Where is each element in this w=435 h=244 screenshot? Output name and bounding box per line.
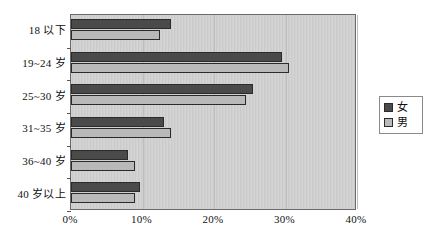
bar-female xyxy=(71,182,140,192)
bar-female xyxy=(71,52,282,62)
category-label: 31~35 岁 xyxy=(22,121,66,135)
category-label: 36~40 岁 xyxy=(22,154,66,168)
category-tick xyxy=(67,211,71,212)
bar-male xyxy=(71,63,289,73)
bar-male xyxy=(71,161,135,171)
bar-chart-figure: 18 以下19~24 岁25~30 岁31~35 岁36~40 岁40 岁以上 … xyxy=(0,0,435,244)
plot-area xyxy=(70,14,356,210)
bar-male xyxy=(71,30,160,40)
gridline xyxy=(286,15,287,209)
legend-label: 男 xyxy=(397,117,408,128)
legend-item: 男 xyxy=(384,115,419,130)
legend-item: 女 xyxy=(384,100,419,115)
value-tick-label: 30% xyxy=(274,213,295,225)
category-axis-labels: 18 以下19~24 岁25~30 岁31~35 岁36~40 岁40 岁以上 xyxy=(0,14,68,210)
bar-female xyxy=(71,19,171,29)
value-tick-label: 0% xyxy=(62,213,77,225)
legend-label: 女 xyxy=(397,102,408,113)
chart-legend: 女男 xyxy=(379,96,423,134)
category-tick xyxy=(67,48,71,49)
value-tick-label: 40% xyxy=(346,213,367,225)
category-tick xyxy=(67,113,71,114)
bar-male xyxy=(71,95,246,105)
value-tick-label: 10% xyxy=(131,213,152,225)
category-label: 19~24 岁 xyxy=(22,56,66,70)
category-label: 18 以下 xyxy=(29,23,66,37)
gridline xyxy=(357,15,358,209)
gridline xyxy=(214,15,215,209)
bar-male xyxy=(71,193,135,203)
category-tick xyxy=(67,146,71,147)
value-axis-labels: 0%10%20%30%40% xyxy=(70,213,356,231)
category-label: 40 岁以上 xyxy=(17,187,66,201)
category-label: 25~30 岁 xyxy=(22,89,66,103)
gridline xyxy=(143,15,144,209)
category-tick xyxy=(67,80,71,81)
bar-female xyxy=(71,117,164,127)
value-tick-label: 20% xyxy=(203,213,224,225)
bar-female xyxy=(71,84,253,94)
bar-female xyxy=(71,150,128,160)
legend-swatch-icon xyxy=(384,103,393,112)
bar-male xyxy=(71,128,171,138)
category-tick xyxy=(67,178,71,179)
legend-swatch-icon xyxy=(384,118,393,127)
